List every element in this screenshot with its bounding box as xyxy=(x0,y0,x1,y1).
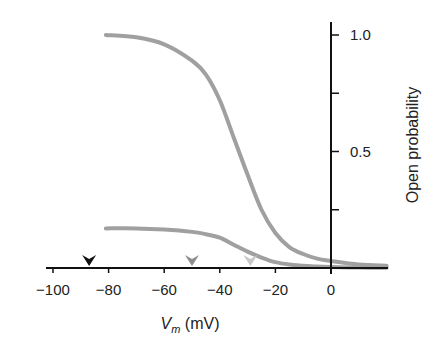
x-tick-label: −80 xyxy=(96,281,121,298)
arrowhead-icon xyxy=(185,255,199,266)
x-tick-label: −20 xyxy=(263,281,288,298)
y-tick-label: 1.0 xyxy=(350,26,371,43)
x-tick-label: 0 xyxy=(327,281,335,298)
arrowhead-markers xyxy=(82,255,257,266)
x-axis-title: Vm (mV) xyxy=(161,315,220,335)
arrowhead-icon xyxy=(82,255,96,266)
plot-area xyxy=(106,35,387,268)
upper-curve xyxy=(106,35,387,266)
x-tick-label: −60 xyxy=(151,281,176,298)
x-tick-label: −100 xyxy=(36,281,70,298)
x-ticks: −100−80−60−40−200 xyxy=(36,268,335,298)
y-axis-title: Open probability xyxy=(404,87,421,204)
x-tick-label: −40 xyxy=(207,281,232,298)
y-ticks: 0.51.0 xyxy=(331,26,371,210)
y-tick-label: 0.5 xyxy=(350,143,371,160)
chart: −100−80−60−40−200 0.51.0 Vm (mV) Open pr… xyxy=(0,0,442,357)
arrowhead-icon xyxy=(243,255,257,266)
